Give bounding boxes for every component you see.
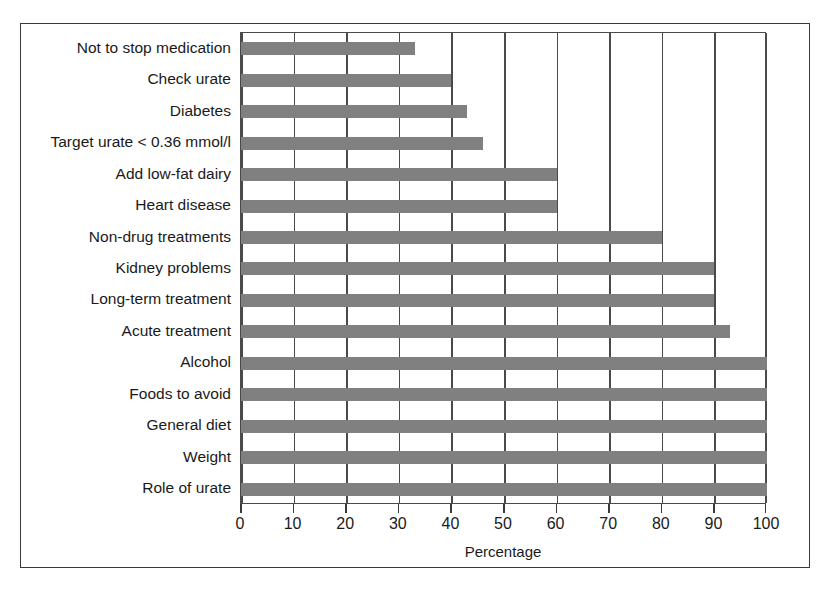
bar-row[interactable] bbox=[241, 64, 767, 95]
category-label: General diet bbox=[147, 410, 231, 441]
x-tick-30 bbox=[398, 504, 400, 513]
category-label: Not to stop medication bbox=[77, 32, 231, 63]
bar[interactable] bbox=[241, 420, 767, 433]
x-tick-label-10: 10 bbox=[284, 515, 302, 533]
bar-row[interactable] bbox=[241, 159, 767, 190]
bar-row[interactable] bbox=[241, 348, 767, 379]
category-axis-labels: Not to stop medicationCheck urateDiabete… bbox=[21, 32, 237, 504]
category-label: Long-term treatment bbox=[91, 284, 231, 315]
bar[interactable] bbox=[241, 357, 767, 370]
bar[interactable] bbox=[241, 388, 767, 401]
bar-row[interactable] bbox=[241, 96, 767, 127]
bar[interactable] bbox=[241, 200, 557, 213]
bar[interactable] bbox=[241, 137, 483, 150]
category-label: Weight bbox=[183, 441, 231, 472]
x-tick-label-60: 60 bbox=[547, 515, 565, 533]
category-label: Diabetes bbox=[170, 95, 231, 126]
x-tick-label-80: 80 bbox=[652, 515, 670, 533]
x-tick-label-0: 0 bbox=[236, 515, 245, 533]
x-tick-label-30: 30 bbox=[389, 515, 407, 533]
category-label: Kidney problems bbox=[116, 252, 231, 283]
horizontal-bar-chart: Not to stop medicationCheck urateDiabete… bbox=[21, 24, 809, 567]
category-label: Heart disease bbox=[135, 189, 231, 220]
category-label: Check urate bbox=[147, 63, 231, 94]
category-label: Non-drug treatments bbox=[89, 221, 231, 252]
bar-row[interactable] bbox=[241, 253, 767, 284]
x-tick-90 bbox=[713, 504, 715, 513]
x-axis: Percentage 0102030405060708090100 bbox=[240, 504, 766, 564]
bar-row[interactable] bbox=[241, 33, 767, 64]
bar[interactable] bbox=[241, 451, 767, 464]
x-tick-label-70: 70 bbox=[599, 515, 617, 533]
x-tick-label-50: 50 bbox=[494, 515, 512, 533]
figure-frame: Not to stop medicationCheck urateDiabete… bbox=[20, 23, 810, 568]
bar[interactable] bbox=[241, 231, 662, 244]
x-tick-70 bbox=[608, 504, 610, 513]
x-tick-80 bbox=[661, 504, 663, 513]
category-label: Alcohol bbox=[180, 347, 231, 378]
x-tick-label-90: 90 bbox=[704, 515, 722, 533]
x-axis-title: Percentage bbox=[240, 543, 766, 560]
category-label: Add low-fat dairy bbox=[116, 158, 231, 189]
x-tick-label-100: 100 bbox=[753, 515, 780, 533]
plot-area bbox=[240, 32, 766, 504]
category-label: Role of urate bbox=[142, 473, 231, 504]
x-tick-10 bbox=[293, 504, 295, 513]
bar[interactable] bbox=[241, 262, 714, 275]
bar-row[interactable] bbox=[241, 190, 767, 221]
bar-row[interactable] bbox=[241, 442, 767, 473]
bar[interactable] bbox=[241, 294, 714, 307]
bar[interactable] bbox=[241, 74, 451, 87]
bar-row[interactable] bbox=[241, 222, 767, 253]
bar[interactable] bbox=[241, 168, 557, 181]
bar[interactable] bbox=[241, 105, 467, 118]
x-tick-100 bbox=[765, 504, 767, 513]
bar-row[interactable] bbox=[241, 316, 767, 347]
bar-row[interactable] bbox=[241, 411, 767, 442]
category-label: Foods to avoid bbox=[129, 378, 231, 409]
bar-row[interactable] bbox=[241, 379, 767, 410]
bar[interactable] bbox=[241, 325, 730, 338]
x-tick-0 bbox=[240, 504, 242, 513]
bar[interactable] bbox=[241, 483, 767, 496]
category-label: Acute treatment bbox=[122, 315, 231, 346]
bar-row[interactable] bbox=[241, 474, 767, 505]
x-tick-60 bbox=[556, 504, 558, 513]
x-tick-label-20: 20 bbox=[336, 515, 354, 533]
x-tick-40 bbox=[450, 504, 452, 513]
category-label: Target urate < 0.36 mmol/l bbox=[51, 126, 232, 157]
x-tick-20 bbox=[345, 504, 347, 513]
x-tick-50 bbox=[503, 504, 505, 513]
x-tick-label-40: 40 bbox=[441, 515, 459, 533]
bars-layer bbox=[241, 33, 765, 503]
bar-row[interactable] bbox=[241, 285, 767, 316]
bar[interactable] bbox=[241, 42, 415, 55]
bar-row[interactable] bbox=[241, 127, 767, 158]
